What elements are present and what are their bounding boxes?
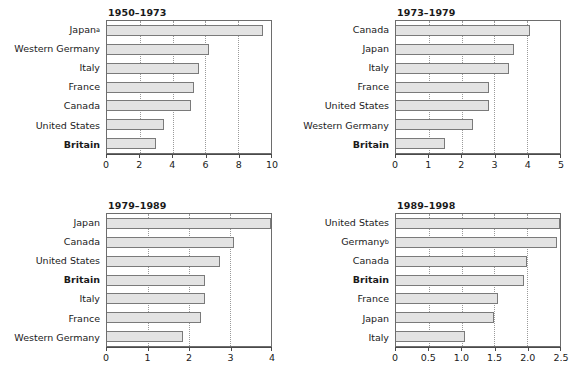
bar — [395, 63, 509, 74]
bar-row — [107, 271, 271, 290]
axis-tick-label: 10 — [266, 160, 278, 170]
category-label: Western Germany — [0, 39, 105, 58]
category-label-text: France — [68, 82, 100, 92]
bar-row — [396, 327, 560, 346]
category-label: Canada — [0, 97, 105, 116]
category-label-text: Japan — [74, 218, 101, 228]
axis-tick — [461, 347, 462, 351]
axis-tick-label: 0 — [392, 353, 398, 363]
category-label: Italy — [0, 290, 105, 309]
category-label: Japan — [289, 39, 394, 58]
category-label: Western Germany — [0, 328, 105, 347]
bar — [395, 237, 557, 248]
axis-tick — [148, 347, 149, 351]
axis-tick-label: 0 — [392, 160, 398, 170]
bar-row — [107, 308, 271, 327]
category-label: United States — [0, 251, 105, 270]
category-label: United States — [289, 97, 394, 116]
bar-row — [107, 233, 271, 252]
category-label-text: France — [357, 82, 389, 92]
axis-tick-label: 1 — [144, 353, 150, 363]
category-label-text: United States — [36, 121, 100, 131]
category-label-text: United States — [325, 101, 389, 111]
bar-row — [396, 252, 560, 271]
bar-series — [396, 214, 560, 346]
bar-series — [107, 214, 271, 346]
axis-tick-label: 3 — [492, 160, 498, 170]
axis-tick-label: 1 — [425, 160, 431, 170]
category-label: Japana — [0, 20, 105, 39]
axis-tick-label: 5 — [558, 160, 564, 170]
axis-tick-label: 1.0 — [454, 353, 469, 363]
axis-tick-label: 2.0 — [520, 353, 535, 363]
category-label-text: Britain — [353, 275, 389, 285]
axis-tick — [271, 154, 272, 158]
category-label-text: Canada — [64, 101, 100, 111]
category-label-text: Canada — [64, 237, 100, 247]
category-label: Germanyb — [289, 232, 394, 251]
bar — [106, 82, 194, 93]
bar — [395, 312, 494, 323]
axis-tick-label: 2 — [458, 160, 464, 170]
category-label: Britain — [289, 270, 394, 289]
bar-row — [107, 40, 271, 59]
bar-row — [107, 21, 271, 40]
category-label: Italy — [289, 58, 394, 77]
category-label-text: United States — [36, 256, 100, 266]
axis-tick — [139, 154, 140, 158]
bar — [395, 119, 473, 130]
bar-row — [396, 214, 560, 233]
bar-row — [396, 115, 560, 134]
axis-tick-label: 3 — [227, 353, 233, 363]
chart-panel-1: 1973–1979 CanadaJapanItalyFranceUnited S… — [289, 0, 578, 193]
gridline — [271, 214, 272, 346]
gridline — [560, 21, 561, 153]
x-axis: 01234 — [106, 347, 272, 373]
bar-row — [107, 252, 271, 271]
category-label: Western Germany — [289, 116, 394, 135]
chart-panel-2: 1979–1989 JapanCanadaUnited StatesBritai… — [0, 193, 289, 386]
axis-tick — [395, 154, 396, 158]
bar-row — [107, 134, 271, 153]
chart-title: 1979–1989 — [108, 200, 167, 211]
bar — [106, 25, 263, 36]
plot-area-wrapper: CanadaJapanItalyFranceUnited StatesWeste… — [289, 20, 578, 180]
axis-tick — [106, 347, 107, 351]
bar — [106, 256, 220, 267]
category-label-text: Britain — [64, 275, 100, 285]
bar-row — [396, 134, 560, 153]
bar — [106, 119, 164, 130]
bar — [106, 63, 199, 74]
axis-tick — [560, 347, 561, 351]
bar — [106, 312, 201, 323]
bar-series — [107, 21, 271, 153]
category-label: France — [289, 77, 394, 96]
bar-row — [396, 271, 560, 290]
bar — [395, 25, 530, 36]
axis-tick-label: 2 — [136, 160, 142, 170]
gridline — [271, 21, 272, 153]
category-label-text: United States — [325, 218, 389, 228]
bar — [106, 331, 183, 342]
plot-frame — [106, 213, 272, 347]
bar-row — [396, 289, 560, 308]
axis-tick-label: 8 — [236, 160, 242, 170]
bar — [395, 100, 489, 111]
axis-tick — [495, 154, 496, 158]
bar — [395, 275, 524, 286]
plot-frame — [395, 213, 561, 347]
bar-row — [107, 289, 271, 308]
category-label-text: France — [357, 294, 389, 304]
category-label-text: Italy — [79, 294, 100, 304]
bar — [395, 82, 489, 93]
axis-line — [395, 154, 561, 155]
category-labels: JapanaWestern GermanyItalyFranceCanadaUn… — [0, 20, 105, 154]
axis-tick — [495, 347, 496, 351]
bar-row — [107, 59, 271, 78]
bar-row — [107, 214, 271, 233]
axis-tick — [231, 347, 232, 351]
axis-tick — [271, 347, 272, 351]
axis-line — [395, 347, 561, 348]
bar — [395, 44, 514, 55]
bar — [106, 293, 205, 304]
